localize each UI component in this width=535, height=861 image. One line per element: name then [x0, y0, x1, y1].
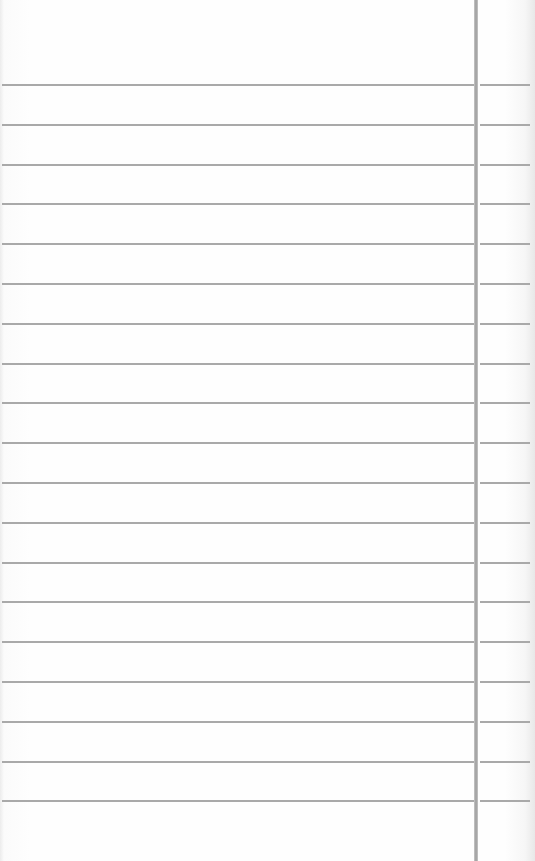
- ruled-line: [480, 800, 530, 802]
- ruled-line: [2, 243, 474, 245]
- ruled-line: [2, 283, 474, 285]
- ruled-line: [480, 203, 530, 205]
- margin-line: [474, 0, 478, 861]
- ruled-line: [480, 164, 530, 166]
- ruled-line: [480, 681, 530, 683]
- ruled-line: [480, 84, 530, 86]
- ruled-line: [2, 203, 474, 205]
- ruled-line: [2, 562, 474, 564]
- ruled-line: [480, 402, 530, 404]
- ruled-line: [2, 522, 474, 524]
- ruled-line: [2, 761, 474, 763]
- ruled-line: [2, 800, 474, 802]
- notepad-paper: [0, 0, 535, 861]
- ruled-line: [2, 482, 474, 484]
- ruled-line: [2, 164, 474, 166]
- ruled-line: [480, 323, 530, 325]
- ruled-line: [2, 363, 474, 365]
- ruled-line: [2, 323, 474, 325]
- ruled-line: [2, 124, 474, 126]
- ruled-line: [2, 641, 474, 643]
- ruled-line: [2, 681, 474, 683]
- ruled-line: [480, 124, 530, 126]
- ruled-line: [480, 641, 530, 643]
- ruled-line: [480, 522, 530, 524]
- ruled-line: [2, 721, 474, 723]
- ruled-line: [2, 84, 474, 86]
- ruled-line: [480, 243, 530, 245]
- ruled-line: [2, 442, 474, 444]
- ruled-line: [480, 721, 530, 723]
- ruled-line: [480, 283, 530, 285]
- ruled-line: [480, 363, 530, 365]
- ruled-line: [480, 562, 530, 564]
- ruled-line: [2, 402, 474, 404]
- ruled-line: [480, 442, 530, 444]
- ruled-line: [480, 482, 530, 484]
- ruled-line: [480, 761, 530, 763]
- ruled-line: [480, 601, 530, 603]
- ruled-line: [2, 601, 474, 603]
